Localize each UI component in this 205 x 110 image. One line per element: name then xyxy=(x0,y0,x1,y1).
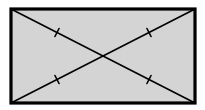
rectangle-diagram xyxy=(0,0,205,110)
